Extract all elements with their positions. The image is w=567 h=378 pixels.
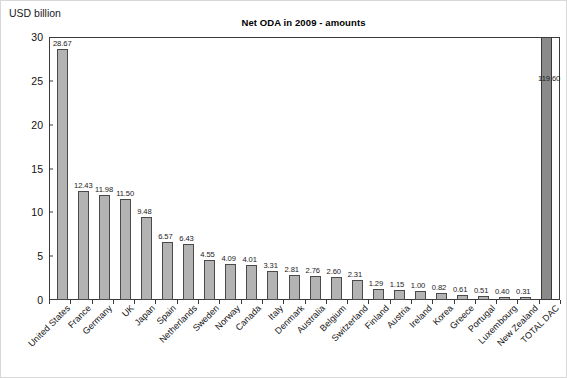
y-axis-tick-label: 15 (3, 163, 43, 175)
bar[interactable] (373, 289, 384, 300)
bar-slot[interactable]: 6.43 (178, 37, 199, 300)
y-axis-tick-label: 25 (3, 75, 43, 87)
bar-slot[interactable]: 1.15 (389, 37, 410, 300)
bar[interactable] (225, 264, 236, 300)
bar-slot[interactable]: 2.60 (326, 37, 347, 300)
x-axis-labels: United StatesFranceGermanyUKJapanSpainNe… (49, 303, 560, 378)
bar-value-label: 0.61 (453, 285, 467, 294)
bar[interactable] (246, 265, 257, 300)
bar[interactable] (120, 199, 131, 300)
bar-value-label: 9.48 (137, 207, 151, 216)
bar-value-label: 6.57 (158, 232, 172, 241)
bar[interactable] (394, 290, 405, 300)
bar-slot[interactable]: 0.40 (494, 37, 515, 300)
chart-title: Net ODA in 2009 - amounts (1, 17, 566, 28)
bar[interactable] (162, 242, 173, 300)
bar-slot[interactable]: 11.98 (94, 37, 115, 300)
bar-slot[interactable]: 2.76 (305, 37, 326, 300)
bar-slot[interactable]: 4.01 (241, 37, 262, 300)
bar-slot[interactable]: 0.51 (473, 37, 494, 300)
bar-slot[interactable]: 2.81 (284, 37, 305, 300)
bar-value-label: 12.43 (74, 181, 93, 190)
bar-value-label: 6.43 (179, 234, 193, 243)
bar[interactable] (289, 275, 300, 300)
bar-value-label: 3.31 (263, 261, 277, 270)
bar-slot[interactable]: 3.31 (262, 37, 283, 300)
bar[interactable] (415, 291, 426, 300)
y-axis-tick-label: 0 (3, 294, 43, 306)
bar-slot[interactable]: 12.43 (73, 37, 94, 300)
bar-slot[interactable]: 4.09 (220, 37, 241, 300)
bar-slot[interactable]: 0.82 (431, 37, 452, 300)
bar-value-label: 0.82 (432, 283, 446, 292)
x-axis-label: Japan (132, 303, 157, 328)
bar[interactable] (99, 195, 110, 300)
bar-value-label: 2.76 (306, 266, 320, 275)
bar[interactable] (57, 49, 68, 300)
bar[interactable] (310, 276, 321, 300)
bar-value-label: 11.50 (116, 189, 134, 198)
plot-area: 051015202530 28.6712.4311.9811.509.486.5… (49, 37, 560, 300)
bar-series: 28.6712.4311.9811.509.486.576.434.554.09… (49, 37, 560, 300)
bar-value-label: 0.40 (495, 287, 509, 296)
y-axis-tick-label: 20 (3, 119, 43, 131)
y-axis-tick-label: 10 (3, 206, 43, 218)
bar-value-label: 28.67 (53, 39, 72, 48)
bar-slot[interactable]: 1.00 (410, 37, 431, 300)
bar-value-label: 1.15 (390, 280, 404, 289)
chart-figure: USD billion Net ODA in 2009 - amounts 05… (0, 0, 567, 378)
bar-slot[interactable]: 9.48 (136, 37, 157, 300)
bar-slot[interactable]: 119.60 (536, 37, 557, 300)
bar-slot[interactable]: 28.67 (52, 37, 73, 300)
bar-value-label: 11.98 (95, 185, 113, 194)
bar-value-label: 2.60 (327, 267, 341, 276)
bar-value-label: 4.55 (200, 250, 214, 259)
bar-value-label: 119.60 (538, 74, 560, 83)
bar-value-label: 1.29 (369, 279, 383, 288)
bar-value-label: 4.01 (242, 255, 256, 264)
bar[interactable] (183, 244, 194, 300)
bar-value-label: 2.81 (285, 265, 299, 274)
bar-value-label: 2.31 (348, 270, 362, 279)
x-axis-label: UK (120, 303, 136, 319)
bar-slot[interactable]: 11.50 (115, 37, 136, 300)
x-axis-label: Austria (385, 303, 412, 330)
bar-slot[interactable]: 2.31 (347, 37, 368, 300)
bar-slot[interactable]: 0.61 (452, 37, 473, 300)
bar-value-label: 1.00 (411, 281, 425, 290)
x-axis-tick-mark (560, 300, 561, 304)
x-axis-label: Ireland (407, 303, 434, 330)
bar[interactable] (141, 217, 152, 300)
bar[interactable] (352, 280, 363, 300)
bar-value-label: 0.31 (516, 287, 530, 296)
bar-slot[interactable]: 1.29 (368, 37, 389, 300)
x-axis-label: United States (26, 303, 72, 349)
bar[interactable] (331, 277, 342, 300)
bar[interactable] (204, 260, 215, 300)
bar-slot[interactable]: 6.57 (157, 37, 178, 300)
bar-value-label: 4.09 (221, 254, 235, 263)
bar[interactable] (78, 191, 89, 300)
bar[interactable] (436, 293, 447, 300)
bar-slot[interactable]: 0.31 (515, 37, 536, 300)
y-axis-tick-label: 5 (3, 250, 43, 262)
y-axis-tick-label: 30 (3, 31, 43, 43)
bar-value-label: 0.51 (474, 286, 488, 295)
bar[interactable] (267, 271, 278, 300)
bar-slot[interactable]: 4.55 (199, 37, 220, 300)
